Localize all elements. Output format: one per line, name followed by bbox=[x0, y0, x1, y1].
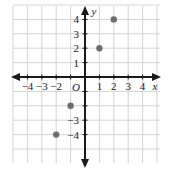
x-axis-label: x bbox=[152, 80, 158, 92]
coordinate-plane-svg: −4−3−212344321−3−4 O x y bbox=[0, 0, 172, 174]
x-tick-label: 3 bbox=[125, 80, 131, 92]
y-tick-label: 1 bbox=[74, 57, 80, 69]
data-point bbox=[96, 45, 102, 51]
x-tick-label: 4 bbox=[140, 80, 146, 92]
origin-label: O bbox=[72, 81, 80, 93]
y-tick-label: −3 bbox=[67, 114, 79, 126]
x-tick-label: −3 bbox=[36, 80, 48, 92]
x-tick-label: 1 bbox=[97, 80, 103, 92]
y-tick-label: 3 bbox=[74, 28, 80, 40]
data-point bbox=[67, 103, 73, 109]
y-tick-label: 2 bbox=[74, 42, 80, 54]
x-tick-label: −2 bbox=[50, 80, 62, 92]
y-axis-label: y bbox=[91, 5, 97, 17]
x-tick-label: 2 bbox=[111, 80, 117, 92]
data-point bbox=[53, 131, 59, 137]
coordinate-plane-figure: −4−3−212344321−3−4 O x y bbox=[0, 0, 172, 174]
data-point bbox=[111, 16, 117, 22]
y-tick-label: −4 bbox=[67, 129, 79, 141]
x-tick-label: −4 bbox=[22, 80, 34, 92]
y-tick-label: 4 bbox=[74, 13, 80, 25]
